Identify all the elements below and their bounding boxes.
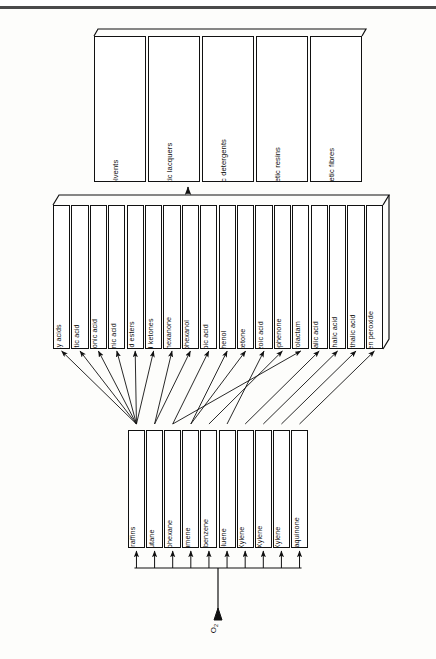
- feedstock-label: Anthraquinone: [292, 517, 299, 548]
- oxidation-product-label: Acetic acid: [73, 324, 80, 349]
- oxidation-product-box: Hydrogen peroxide: [366, 205, 383, 349]
- oxidation-product-box: Caprolactam: [292, 205, 309, 349]
- feedstock-label: Paraffins: [129, 526, 136, 548]
- oxidation-product-label: Hydrogen peroxide: [367, 311, 374, 349]
- feedstock-box: Cyclohexane: [164, 430, 181, 548]
- oxidation-product-label: Adipic acid: [202, 324, 209, 349]
- scan-edge-artifact: [0, 6, 436, 9]
- end-product-label: Synthetic detergents: [220, 139, 228, 182]
- oxidation-product-label: Fatty acids: [54, 324, 61, 349]
- end-product-box: Synthetic detergents: [202, 36, 254, 182]
- oxidation-product-box: Phthalic acid: [311, 205, 328, 349]
- oxygen-feed-label: O2: [209, 624, 218, 633]
- oxidation-product-box: Terephthalic acid: [347, 205, 364, 349]
- oxidation-product-label: Caprolactam: [294, 321, 301, 349]
- oxidation-product-label: Cyclohexanone: [165, 317, 172, 349]
- feedstock-label: Cumene: [184, 527, 191, 548]
- oxidation-product-box: Phenol: [219, 205, 236, 349]
- oxidation-product-label: Terephthalic acid: [349, 314, 356, 349]
- oxidation-product-label: Benzoic acid: [257, 321, 264, 349]
- oxidation-product-label: Cyclohexanol: [183, 320, 190, 349]
- feedstock-label: p-Xylene: [274, 526, 281, 548]
- scan-top-margin: [0, 0, 436, 6]
- feedstock-label: Ethylbenzene: [202, 519, 209, 548]
- end-product-label: Solvents: [113, 160, 121, 182]
- oxidation-product-label: Formic acid: [110, 323, 117, 349]
- oxidation-product-box: Cyclohexanol: [182, 205, 199, 349]
- oxidation-product-box: Propionic acid: [90, 205, 107, 349]
- oxidation-product-box: Isophthalic acid: [329, 205, 346, 349]
- oxidation-product-box: Fatty acids: [53, 205, 70, 349]
- end-product-box: Synthetic lacquers: [148, 36, 200, 182]
- oxidation-product-label: Phenol: [220, 331, 227, 349]
- feedstock-box: Paraffins: [128, 430, 145, 548]
- oxidation-products-group: Fatty acidsAcetic acidPropionic acidForm…: [53, 205, 383, 349]
- oxidation-product-label: Propionic acid: [91, 319, 98, 349]
- oxidation-product-label: Phthalic acid: [312, 321, 319, 349]
- end-product-label: Synthetic resins: [274, 147, 282, 182]
- feedstock-box: Anthraquinone: [291, 430, 308, 548]
- oxidation-product-box: Acetic acid: [71, 205, 88, 349]
- oxidation-product-label: Acetophenone: [275, 318, 282, 349]
- oxidation-product-box: Cyclohexanone: [163, 205, 180, 349]
- feedstock-label: m-Xylene: [256, 525, 263, 548]
- oxidation-product-box: Adipic acid: [200, 205, 217, 349]
- oxidation-product-box: Acetophenone: [274, 205, 291, 349]
- oxidation-product-box: Acetone: [237, 205, 254, 349]
- feedstock-box: Toluene: [219, 430, 236, 548]
- oxidation-product-label: Mixed ketones: [146, 318, 153, 349]
- oxidation-product-box: Mixed ketones: [145, 205, 162, 349]
- end-products-group: SolventsSynthetic lacquersSynthetic dete…: [94, 36, 362, 182]
- feedstock-box: Ethylbenzene: [200, 430, 217, 548]
- oxidation-product-box: Mixed esters: [127, 205, 144, 349]
- oxidation-product-box: Formic acid: [108, 205, 125, 349]
- hydrocarbon-feedstocks-group: ParaffinsButaneCyclohexaneCumeneEthylben…: [128, 430, 308, 548]
- feedstock-label: Butane: [147, 529, 154, 548]
- feedstock-label: Cyclohexane: [165, 520, 172, 548]
- oxidation-product-box: Benzoic acid: [255, 205, 272, 349]
- feedstock-box: m-Xylene: [255, 430, 272, 548]
- oxidation-product-label: Acetone: [238, 328, 245, 349]
- end-product-label: Synthetic lacquers: [166, 143, 174, 182]
- feedstock-box: o-Xylene: [237, 430, 254, 548]
- end-product-box: Synthetic fibres: [310, 36, 362, 182]
- feedstock-box: p-Xylene: [273, 430, 290, 548]
- feedstock-label: o-Xylene: [238, 526, 245, 548]
- oxidation-product-label: Isophthalic acid: [330, 316, 337, 349]
- end-product-box: Solvents: [94, 36, 146, 182]
- end-product-box: Synthetic resins: [256, 36, 308, 182]
- diagram-page: SolventsSynthetic lacquersSynthetic dete…: [0, 0, 436, 659]
- oxidation-product-label: Mixed esters: [128, 321, 135, 349]
- end-product-label: Synthetic fibres: [328, 148, 336, 182]
- feedstock-label: Toluene: [220, 528, 227, 548]
- feedstock-box: Cumene: [182, 430, 199, 548]
- feedstock-box: Butane: [146, 430, 163, 548]
